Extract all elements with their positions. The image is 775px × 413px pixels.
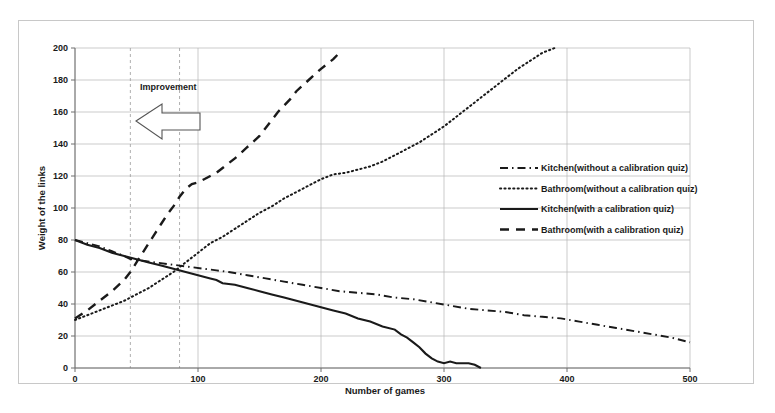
y-tick-label: 60 <box>58 267 68 277</box>
y-axis-title: Weight of the links <box>36 166 47 250</box>
y-tick-label: 20 <box>58 331 68 341</box>
x-tick-label: 400 <box>559 374 574 384</box>
chart-canvas: 020406080100120140160180200 010020030040… <box>0 0 775 413</box>
legend-label: Bathroom(without a calibration quiz) <box>541 184 698 194</box>
y-tick-label: 140 <box>53 139 68 149</box>
improvement-arrow-icon <box>136 104 200 139</box>
legend-label: Kitchen(with a calibration quiz) <box>541 204 674 214</box>
improvement-annotation: Improvement <box>136 82 200 139</box>
x-axis-title: Number of games <box>345 385 425 396</box>
y-axis-tick-labels: 020406080100120140160180200 <box>53 43 75 373</box>
y-tick-label: 100 <box>53 203 68 213</box>
y-tick-label: 160 <box>53 107 68 117</box>
y-tick-label: 200 <box>53 43 68 53</box>
x-axis-tick-labels: 0100200300400500 <box>72 368 697 384</box>
chart-svg: 020406080100120140160180200 010020030040… <box>0 0 775 413</box>
improvement-label: Improvement <box>140 82 197 92</box>
x-tick-label: 500 <box>682 374 697 384</box>
legend-label: Kitchen(without a calibration quiz) <box>541 163 688 173</box>
legend-label: Bathroom(with a calibration quiz) <box>541 225 684 235</box>
y-tick-label: 40 <box>58 299 68 309</box>
y-tick-label: 0 <box>63 363 68 373</box>
x-tick-label: 200 <box>313 374 328 384</box>
y-tick-label: 80 <box>58 235 68 245</box>
y-tick-label: 180 <box>53 75 68 85</box>
x-tick-label: 300 <box>436 374 451 384</box>
y-tick-label: 120 <box>53 171 68 181</box>
x-tick-label: 0 <box>72 374 77 384</box>
chart-legend: Kitchen(without a calibration quiz)Bathr… <box>500 163 698 235</box>
x-tick-label: 100 <box>190 374 205 384</box>
